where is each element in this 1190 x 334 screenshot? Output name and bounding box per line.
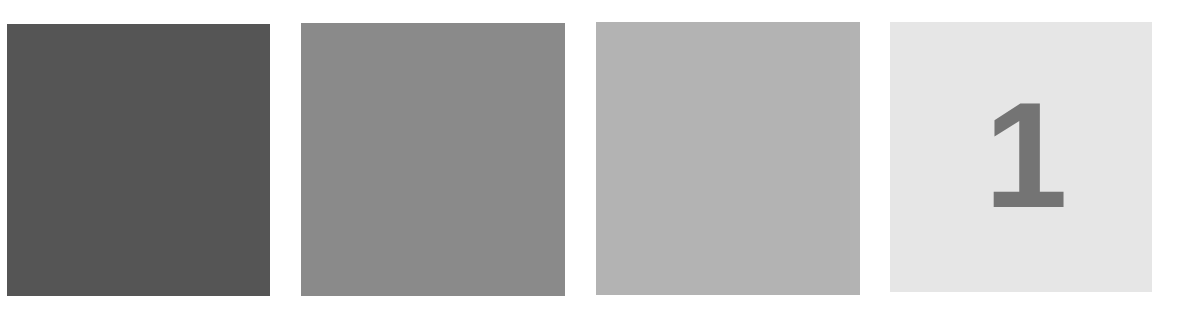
swatch-dark-gray <box>7 24 270 296</box>
swatch-lightest-gray: 1 <box>890 22 1152 292</box>
swatch-medium-gray <box>301 23 565 296</box>
swatch-light-gray <box>596 22 860 295</box>
swatch-number-label: 1 <box>890 80 1152 230</box>
